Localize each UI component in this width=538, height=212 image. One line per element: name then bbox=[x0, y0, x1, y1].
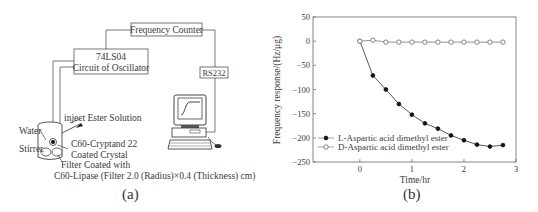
x-tick-label: 2 bbox=[462, 164, 466, 174]
data-point bbox=[501, 143, 505, 147]
y-tick-label: −150 bbox=[292, 109, 310, 119]
y-tick-label: 0 bbox=[306, 36, 310, 46]
series-d-aspartic bbox=[358, 38, 506, 44]
data-point bbox=[501, 40, 505, 44]
water-label: Water bbox=[19, 126, 42, 136]
legend-entry: D-Aspartic acid dimethyl ester bbox=[338, 142, 449, 152]
data-point bbox=[397, 40, 401, 44]
data-point bbox=[410, 40, 414, 44]
crystal-label-line2: Coated Crystal bbox=[71, 150, 128, 160]
legend-filled-marker-icon bbox=[324, 136, 328, 140]
computer-icon bbox=[168, 95, 222, 149]
crystal-label-line1: C60-Cryptand 22 bbox=[71, 139, 137, 149]
data-point bbox=[436, 40, 440, 44]
rs232-label: RS232 bbox=[202, 68, 225, 78]
data-point bbox=[384, 88, 388, 92]
oscillator-box: 74LS04 Circuit of Oscillator bbox=[73, 49, 150, 74]
chart-legend: L-Aspartic acid dimethyl esterD-Aspartic… bbox=[318, 133, 449, 152]
y-axis-ticks: 500−50−100−150−200−250 bbox=[292, 12, 316, 167]
filter-label-line2: C60-Lipase (Filter 2.0 (Radius)×0.4 (Thi… bbox=[54, 171, 255, 182]
data-point bbox=[397, 102, 401, 106]
data-point bbox=[371, 74, 375, 78]
oscillator-chip-label: 74LS04 bbox=[96, 52, 126, 62]
data-point bbox=[475, 143, 479, 147]
data-point bbox=[410, 113, 414, 117]
frequency-counter-label: Frequency Counter bbox=[130, 25, 204, 35]
x-tick-label: 0 bbox=[358, 164, 362, 174]
apparatus-diagram: Frequency Counter 74LS04 Circuit of Osci… bbox=[0, 0, 270, 212]
frequency-counter-box: Frequency Counter bbox=[130, 23, 204, 36]
chart-svg: 500−50−100−150−200−250 0123 L-Aspartic a… bbox=[270, 0, 538, 212]
data-point bbox=[449, 134, 453, 138]
data-point bbox=[488, 40, 492, 44]
data-point bbox=[423, 121, 427, 125]
mouse-icon bbox=[215, 144, 222, 148]
apparatus-svg: Frequency Counter 74LS04 Circuit of Osci… bbox=[0, 0, 270, 212]
data-series bbox=[358, 38, 506, 148]
x-tick-label: 1 bbox=[410, 164, 414, 174]
inject-ester-label: inject Ester Solution bbox=[64, 113, 142, 123]
x-axis-label: Time/hr bbox=[400, 175, 431, 185]
data-point bbox=[371, 38, 375, 42]
panel-b-caption: (b) bbox=[403, 186, 421, 203]
y-tick-label: −200 bbox=[292, 133, 310, 143]
rs232-box: RS232 bbox=[200, 67, 228, 78]
legend-open-marker-icon bbox=[324, 145, 328, 149]
data-point bbox=[384, 40, 388, 44]
data-point bbox=[449, 40, 453, 44]
y-tick-label: −50 bbox=[297, 60, 310, 70]
data-point bbox=[462, 40, 466, 44]
stirrer-label: Stirrer bbox=[19, 144, 44, 154]
y-tick-label: 50 bbox=[302, 12, 311, 22]
y-axis-label: Frequency response/(Hz/μg) bbox=[272, 36, 283, 144]
data-point bbox=[475, 40, 479, 44]
filter-label-line1: Filter Coated with bbox=[61, 160, 130, 170]
y-tick-label: −250 bbox=[292, 157, 310, 167]
data-point bbox=[488, 145, 492, 149]
x-axis-ticks: 0123 bbox=[358, 159, 518, 174]
data-point bbox=[436, 127, 440, 131]
frequency-response-chart: 500−50−100−150−200−250 0123 L-Aspartic a… bbox=[270, 0, 538, 212]
y-tick-label: −100 bbox=[292, 85, 310, 95]
panel-a-caption: (a) bbox=[122, 186, 139, 203]
oscillator-circuit-label: Circuit of Oscillator bbox=[73, 63, 150, 73]
data-point bbox=[462, 138, 466, 142]
x-tick-label: 3 bbox=[514, 164, 518, 174]
data-point bbox=[358, 39, 362, 43]
syringe-icon bbox=[62, 123, 83, 133]
data-point bbox=[423, 40, 427, 44]
